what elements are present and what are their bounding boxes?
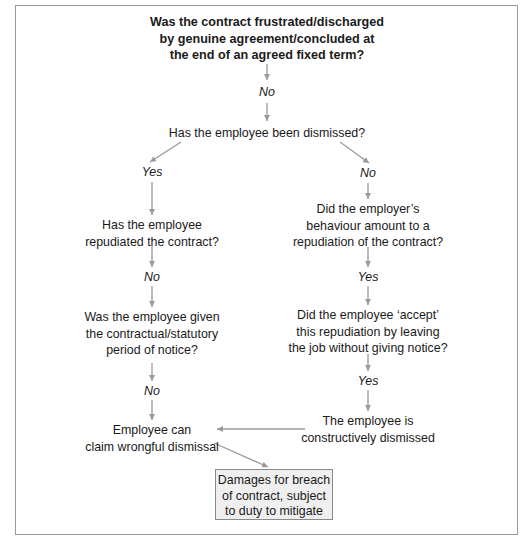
node-text: claim wrongful dismissal xyxy=(85,439,219,456)
label-notice-no: No xyxy=(144,383,160,400)
arrow-wrongful-damages xyxy=(214,443,268,467)
node-text: Has the employee xyxy=(85,217,219,234)
node-employer-behaviour: Did the employer’s behaviour amount to a… xyxy=(293,201,443,251)
node-text: this repudiation by leaving xyxy=(288,324,447,341)
label-repudiated-no: No xyxy=(144,269,160,286)
start-question-line: Was the contract frustrated/discharged xyxy=(150,14,384,31)
start-question-line: the end of an agreed fixed term? xyxy=(150,47,384,64)
node-text: the contractual/statutory xyxy=(84,326,219,343)
node-dismissed: Has the employee been dismissed? xyxy=(169,125,365,142)
node-notice: Was the employee given the contractual/s… xyxy=(84,309,219,359)
start-question: Was the contract frustrated/discharged b… xyxy=(150,14,384,64)
node-text: of contract, subject xyxy=(216,489,332,505)
node-wrongful-dismissal: Employee can claim wrongful dismissal xyxy=(85,422,219,455)
node-text: period of notice? xyxy=(84,342,219,359)
node-repudiated: Has the employee repudiated the contract… xyxy=(85,217,219,250)
node-text: Employee can xyxy=(85,422,219,439)
label-dismissed-no: No xyxy=(360,165,376,182)
flow-arrows xyxy=(0,0,532,543)
node-text: Has the employee been dismissed? xyxy=(169,125,365,142)
label-dismissed-yes: Yes xyxy=(142,164,163,181)
start-question-line: by genuine agreement/concluded at xyxy=(150,31,384,48)
node-text: Was the employee given xyxy=(84,309,219,326)
label-accept-yes: Yes xyxy=(358,373,379,390)
node-text: behaviour amount to a xyxy=(293,218,443,235)
label-start-no: No xyxy=(259,84,275,101)
node-text: Did the employer’s xyxy=(293,201,443,218)
node-text: the job without giving notice? xyxy=(288,340,447,357)
node-constructive-dismissal: The employee is constructively dismissed xyxy=(301,413,435,446)
node-text: to duty to mitigate xyxy=(216,504,332,520)
node-text: Did the employee ‘accept’ xyxy=(288,307,447,324)
arrow-dismissed-yes xyxy=(150,142,181,162)
node-text: Damages for breach xyxy=(216,473,332,489)
node-accept-repudiation: Did the employee ‘accept’ this repudiati… xyxy=(288,307,447,357)
node-text: constructively dismissed xyxy=(301,430,435,447)
node-text: repudiated the contract? xyxy=(85,234,219,251)
node-text: The employee is xyxy=(301,413,435,430)
node-text: repudiation of the contract? xyxy=(293,234,443,251)
node-damages-box: Damages for breach of contract, subject … xyxy=(215,469,333,520)
label-employer-yes: Yes xyxy=(358,269,379,286)
arrow-dismissed-no xyxy=(340,142,369,163)
